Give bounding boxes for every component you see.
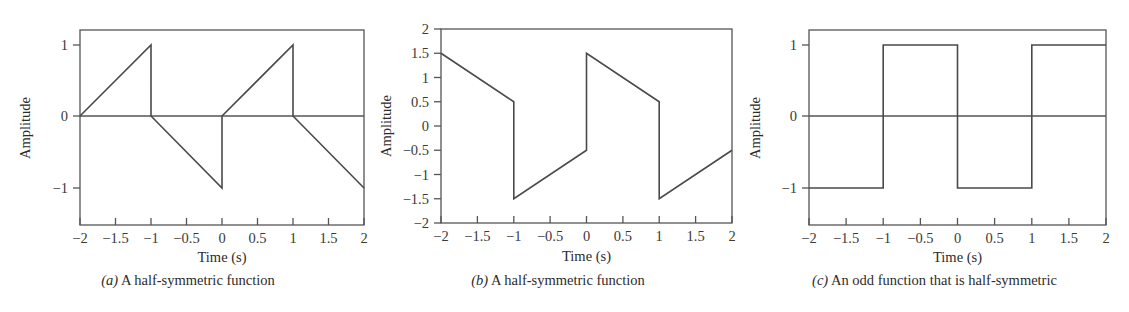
- xtick-label: −1: [506, 228, 521, 244]
- x-axis-title: Time (s): [562, 248, 611, 265]
- xtick-label: −1.5: [464, 228, 490, 244]
- xtick-label: 1.5: [319, 230, 337, 246]
- panel-caption-text: A half-symmetric function: [491, 272, 645, 288]
- panel-a: 1 0 −1 −2 −1.5 −1 −0.5 0 0.5 1 1.5 2 Tim…: [0, 0, 376, 312]
- xtick-label: 1.5: [1060, 230, 1078, 246]
- xtick-label: 0.5: [614, 228, 632, 244]
- xtick-label: −2: [801, 230, 816, 246]
- xtick-label: 1: [289, 230, 296, 246]
- xtick-label: −1.5: [102, 230, 128, 246]
- xtick-label: 1.5: [687, 228, 705, 244]
- panel-caption: (b) A half-symmetric function: [370, 272, 746, 289]
- panel-c-plot: 1 0 −1 −2 −1.5 −1 −0.5 0 0.5 1 1.5 2 Tim…: [740, 0, 1129, 270]
- xtick-label: 1: [1028, 230, 1035, 246]
- ytick-label: −1: [414, 167, 429, 183]
- panel-b: 2 1.5 1 0.5 0 −0.5 −1 −1.5 −2 −2 −1.5 −1…: [370, 0, 746, 312]
- ytick-label: 1.5: [411, 45, 429, 61]
- ytick-label: 0: [422, 118, 429, 134]
- ytick-label: −1.5: [403, 191, 429, 207]
- ytick-label: 0: [790, 108, 797, 124]
- panel-c: 1 0 −1 −2 −1.5 −1 −0.5 0 0.5 1 1.5 2 Tim…: [740, 0, 1116, 312]
- ytick-label: 0.5: [411, 94, 429, 110]
- xtick-label: 2: [360, 230, 367, 246]
- y-axis-title: Amplitude: [747, 97, 763, 159]
- panel-a-plot: 1 0 −1 −2 −1.5 −1 −0.5 0 0.5 1 1.5 2 Tim…: [0, 0, 376, 270]
- ytick-label: 1: [61, 37, 68, 53]
- ytick-label: 0: [61, 108, 68, 124]
- ytick-label: −1: [782, 180, 797, 196]
- xtick-label: 2: [1102, 230, 1109, 246]
- xtick-label: −1: [875, 230, 890, 246]
- ytick-label: −2: [414, 215, 429, 231]
- xtick-label: −0.5: [907, 230, 933, 246]
- panel-caption-label: (a): [101, 272, 118, 288]
- xtick-label: −0.5: [537, 228, 563, 244]
- ytick-label: 2: [422, 21, 429, 37]
- panel-b-plot: 2 1.5 1 0.5 0 −0.5 −1 −1.5 −2 −2 −1.5 −1…: [370, 0, 746, 270]
- xtick-label: 2: [728, 228, 735, 244]
- xtick-label: 1: [656, 228, 663, 244]
- panel-caption: (a) A half-symmetric function: [0, 272, 376, 289]
- x-axis-title: Time (s): [933, 249, 982, 266]
- xtick-label: 0.5: [986, 230, 1004, 246]
- ytick-label: −0.5: [403, 142, 429, 158]
- xtick-label: −0.5: [173, 230, 199, 246]
- xtick-label: 0.5: [248, 230, 266, 246]
- panel-caption-text: An odd function that is half-symmetric: [831, 272, 1057, 288]
- panel-caption-text: A half-symmetric function: [121, 272, 275, 288]
- ytick-label: 1: [790, 37, 797, 53]
- waveform-curve: [441, 53, 732, 199]
- panel-caption: (c) An odd function that is half-symmetr…: [740, 272, 1129, 289]
- panel-caption-label: (b): [471, 272, 488, 288]
- panel-caption-label: (c): [812, 272, 828, 288]
- xtick-label: 0: [583, 228, 590, 244]
- xtick-label: 0: [954, 230, 961, 246]
- xtick-label: −2: [72, 230, 87, 246]
- figure-half-symmetric-functions: 1 0 −1 −2 −1.5 −1 −0.5 0 0.5 1 1.5 2 Tim…: [0, 0, 1129, 312]
- ytick-label: 1: [422, 70, 429, 86]
- xtick-label: 0: [218, 230, 225, 246]
- y-axis-title: Amplitude: [17, 97, 33, 159]
- x-axis-title: Time (s): [197, 249, 246, 266]
- ytick-label: −1: [53, 180, 68, 196]
- xtick-label: −1: [143, 230, 158, 246]
- xtick-label: −1.5: [833, 230, 859, 246]
- y-axis-title: Amplitude: [378, 95, 394, 157]
- xtick-label: −2: [433, 228, 448, 244]
